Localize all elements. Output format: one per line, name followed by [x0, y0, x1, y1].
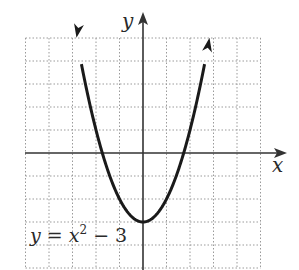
equation-label: y = x2 − 3 [29, 223, 127, 246]
y-axis-label: y [121, 9, 134, 33]
curve-arrow-icon [74, 23, 84, 38]
curve-arrow-icon [202, 38, 212, 53]
x-axis-label: x [272, 153, 283, 177]
parabola-graph: x y y = x2 − 3 [0, 0, 299, 270]
